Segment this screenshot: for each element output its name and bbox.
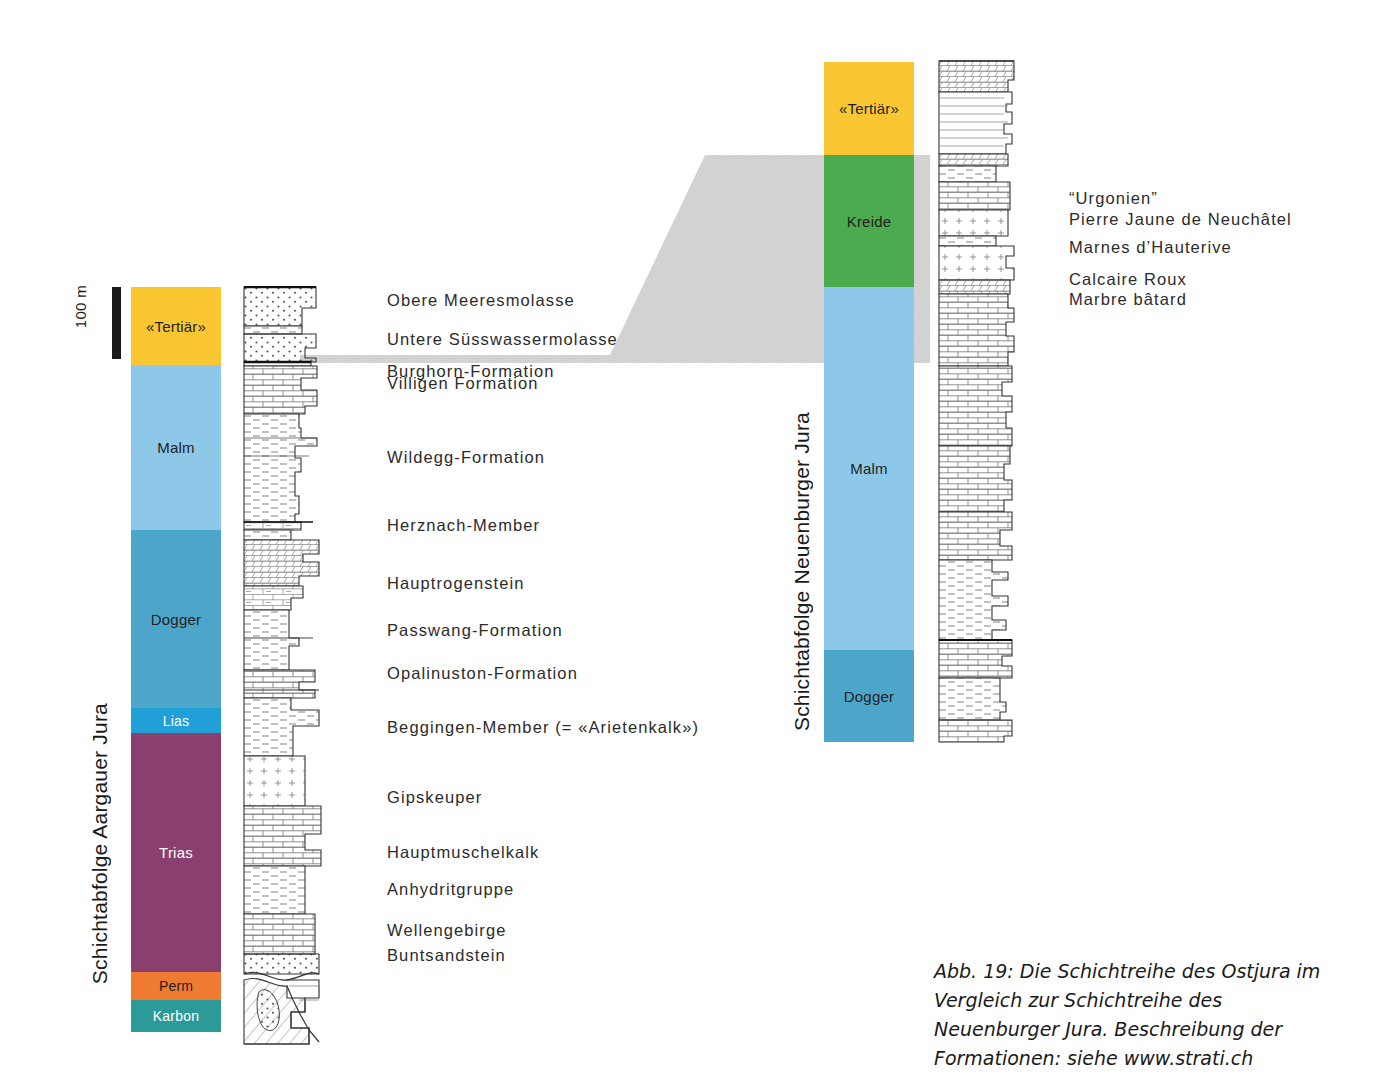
chrono-band-label: Malm: [157, 439, 194, 456]
chrono-band-malm[interactable]: Malm: [131, 365, 221, 530]
formation-label: Anhydritgruppe: [387, 880, 514, 899]
chrono-band-label: Lias: [163, 713, 189, 729]
formation-label: Gipskeuper: [387, 788, 482, 807]
scale-bar: 100 m: [78, 285, 138, 375]
formation-label: Passwang-Formation: [387, 621, 563, 640]
formation-label: Wellengebirge: [387, 921, 506, 940]
chrono-band-malm[interactable]: Malm: [824, 287, 914, 650]
chrono-band-label: Dogger: [844, 688, 894, 705]
chrono-band-tertiär[interactable]: «Tertiär»: [824, 62, 914, 155]
formation-label: Opalinuston-Formation: [387, 664, 578, 683]
formation-label: Obere Meeresmolasse: [387, 291, 575, 310]
chrono-band-label: «Tertiär»: [839, 100, 899, 117]
figure-caption: Abb. 19: Die Schichtreihe des Ostjura im…: [934, 957, 1329, 1073]
chrono-band-dogger[interactable]: Dogger: [824, 650, 914, 742]
left-lithology-log: [243, 286, 339, 1046]
chrono-band-tertiär[interactable]: «Tertiär»: [131, 287, 221, 365]
chrono-band-label: Karbon: [153, 1008, 199, 1024]
formation-label: Villigen Formation: [387, 374, 539, 393]
right-lithology-log: [938, 60, 1034, 748]
chrono-band-label: Kreide: [847, 213, 892, 230]
right-column-title: Schichtabfolge Neuenburger Jura: [790, 412, 814, 731]
right-chronostratigraphy-column: «Tertiär»KreideMalmDogger: [824, 0, 914, 1091]
chrono-band-perm[interactable]: Perm: [131, 972, 221, 1000]
formation-label: Untere Süsswassermolasse: [387, 330, 618, 349]
chrono-band-label: Malm: [850, 460, 887, 477]
french-formation-label: “Urgonien”: [1069, 187, 1158, 209]
formation-label: Herznach-Member: [387, 516, 540, 535]
chrono-band-karbon[interactable]: Karbon: [131, 1000, 221, 1032]
chrono-band-kreide[interactable]: Kreide: [824, 155, 914, 287]
chrono-band-label: Dogger: [151, 611, 201, 628]
scale-bar-label: 100 m: [72, 285, 89, 328]
french-formation-label: Pierre Jaune de Neuchâtel: [1069, 208, 1292, 230]
formation-label: Wildegg-Formation: [387, 448, 545, 467]
left-chronostratigraphy-column: «Tertiär»MalmDoggerLiasTriasPermKarbon: [131, 0, 221, 1091]
formation-label: Buntsandstein: [387, 946, 506, 965]
french-formation-label: Marbre bâtard: [1069, 288, 1187, 310]
chrono-band-trias[interactable]: Trias: [131, 733, 221, 972]
left-column-title: Schichtabfolge Aargauer Jura: [88, 703, 112, 984]
scale-bar-rule: [112, 287, 121, 359]
french-formation-label: Calcaire Roux: [1069, 268, 1187, 290]
formation-label: Hauptmuschelkalk: [387, 843, 539, 862]
chrono-band-label: «Tertiär»: [146, 318, 206, 335]
formation-label: Hauptrogenstein: [387, 574, 525, 593]
chrono-band-lias[interactable]: Lias: [131, 708, 221, 733]
french-formation-label: Marnes d’Hauterive: [1069, 236, 1232, 258]
chrono-band-label: Trias: [159, 844, 193, 861]
chrono-band-dogger[interactable]: Dogger: [131, 530, 221, 708]
formation-label: Beggingen-Member (= «Arietenkalk»): [387, 718, 699, 737]
chrono-band-label: Perm: [159, 978, 193, 994]
